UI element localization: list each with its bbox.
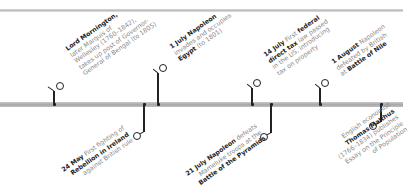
event-label: 21 July Napoleon defeatsMameluke troops …	[184, 122, 267, 190]
event-ring-icon	[321, 79, 329, 87]
event-label: 1 August Napoleondefeated by Britishat B…	[330, 23, 395, 78]
event-connector-line	[143, 104, 144, 132]
event-connector-line	[251, 88, 252, 104]
event-connector-elbow	[48, 86, 55, 91]
event-connector-line	[53, 91, 54, 104]
event-label: 1 July Napoleoninvades and occupiesEgypt…	[168, 5, 237, 63]
event-label: 14 July First federaldirect tax law pass…	[262, 11, 338, 77]
event-label-text: Mameluke troops at the	[197, 128, 262, 177]
event-connector-line	[319, 88, 320, 104]
event-ring-icon	[56, 82, 64, 90]
event-connector-elbow	[153, 68, 159, 73]
event-connector-elbow	[315, 83, 321, 88]
event-ring-icon	[159, 64, 167, 72]
event-ring-icon	[253, 79, 261, 87]
event-label-line: Rebellion in Ireland	[64, 130, 130, 179]
event-ring-icon	[133, 132, 141, 140]
top-rule	[0, 9, 403, 12]
event-label-line: Mameluke troops at the	[188, 128, 262, 183]
event-label: 24 May First fighting ofRebellion in Ire…	[60, 124, 134, 186]
timeline-bar	[0, 102, 403, 107]
event-connector-line	[157, 73, 158, 104]
event-label: English economistThomas Malthus(1766–183…	[328, 101, 409, 173]
event-connector-elbow	[247, 83, 253, 88]
event-connector-line	[270, 104, 271, 133]
